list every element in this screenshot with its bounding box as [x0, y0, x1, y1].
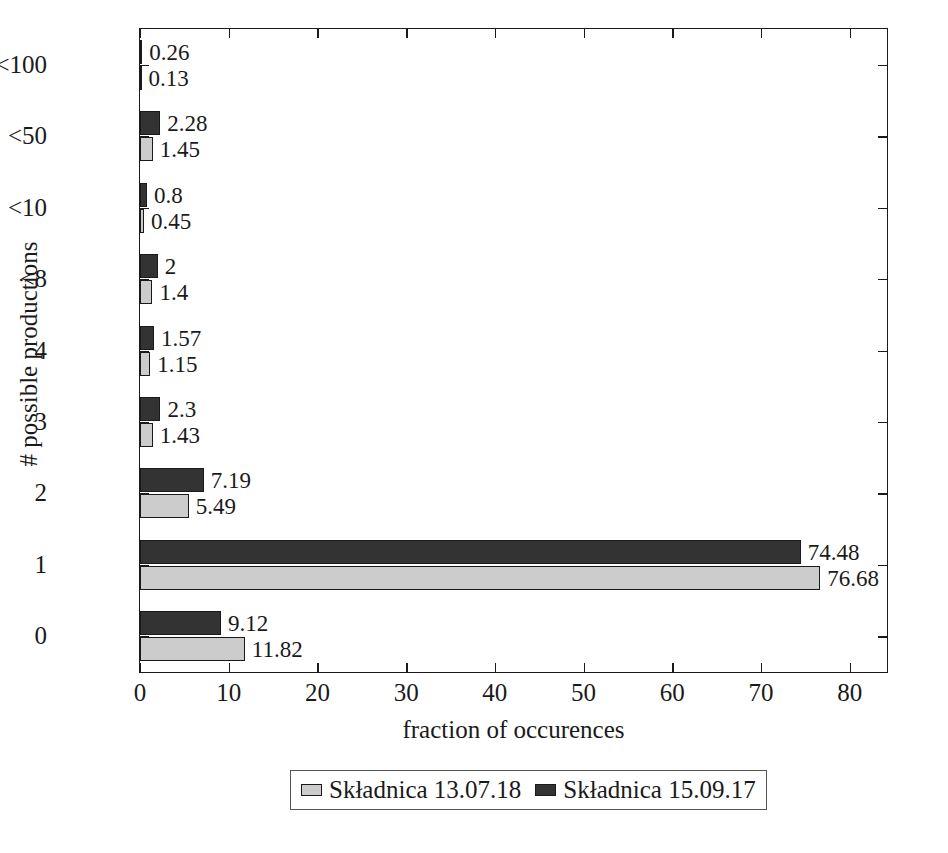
y-tick-mark: [140, 136, 149, 137]
x-tick-mark: [761, 663, 762, 672]
x-tick-mark-top: [317, 29, 318, 38]
bar-value-label: 2.3: [167, 398, 196, 422]
bar-value-label: 76.68: [827, 567, 879, 591]
y-tick-mark-right: [878, 636, 887, 637]
x-tick-mark-top: [584, 29, 585, 38]
bar: [140, 254, 158, 278]
bars-layer: 0.260.132.281.450.80.4521.41.571.152.31.…: [140, 29, 887, 672]
bar: [140, 66, 142, 90]
x-tick-mark-top: [850, 29, 851, 38]
bar: [140, 540, 801, 564]
bar: [140, 423, 153, 447]
bar: [140, 326, 154, 350]
bar-value-label: 2.28: [167, 112, 207, 136]
bar: [140, 183, 147, 207]
legend-entry: Składnica 13.07.18: [301, 777, 521, 803]
bar-value-label: 2: [165, 255, 177, 279]
bar: [140, 566, 820, 590]
x-tick-mark: [584, 663, 585, 672]
y-tick-mark-right: [878, 422, 887, 423]
x-tick-label: 10: [216, 679, 241, 707]
y-tick-mark: [140, 422, 149, 423]
bar-value-label: 74.48: [808, 541, 860, 565]
x-tick-mark-top: [406, 29, 407, 38]
chart-legend: Składnica 13.07.18Składnica 15.09.17: [290, 770, 767, 810]
y-tick-mark: [140, 636, 149, 637]
bar-value-label: 0.8: [154, 184, 183, 208]
y-tick-mark: [140, 208, 149, 209]
x-tick-mark-top: [761, 29, 762, 38]
y-tick-label: <100: [0, 52, 59, 78]
y-tick-mark-right: [878, 65, 887, 66]
bar-chart-figure: 0.260.132.281.450.80.4521.41.571.152.31.…: [0, 0, 948, 853]
y-axis-label: # possible productions: [15, 204, 43, 504]
bar: [140, 280, 152, 304]
x-tick-label: 20: [305, 679, 330, 707]
bar-value-label: 0.45: [151, 210, 191, 234]
bar-value-label: 1.15: [157, 353, 197, 377]
x-tick-mark-top: [229, 29, 230, 38]
y-tick-label: <50: [8, 123, 59, 149]
x-tick-mark: [495, 663, 496, 672]
y-tick-mark: [140, 351, 149, 352]
bar-value-label: 1.45: [160, 138, 200, 162]
y-tick-mark: [140, 565, 149, 566]
bar: [140, 352, 150, 376]
x-tick-label: 70: [749, 679, 774, 707]
x-tick-mark: [317, 663, 318, 672]
x-tick-mark-top: [672, 29, 673, 38]
bar-value-label: 11.82: [252, 638, 303, 662]
legend-label: Składnica 15.09.17: [563, 777, 755, 803]
bar: [140, 397, 160, 421]
x-tick-mark: [672, 663, 673, 672]
bar-value-label: 1.43: [160, 424, 200, 448]
y-tick-mark: [140, 279, 149, 280]
y-tick-mark-right: [878, 208, 887, 209]
bar-value-label: 0.13: [149, 67, 189, 91]
y-tick-mark-right: [878, 493, 887, 494]
x-tick-label: 50: [571, 679, 596, 707]
y-tick-mark-right: [878, 136, 887, 137]
legend-entry: Składnica 15.09.17: [535, 777, 755, 803]
legend-swatch-icon: [301, 784, 322, 796]
y-tick-mark: [140, 493, 149, 494]
x-tick-mark: [140, 663, 141, 672]
bar-value-label: 1.57: [161, 327, 201, 351]
bar-value-label: 0.26: [149, 41, 189, 65]
y-tick-mark-right: [878, 565, 887, 566]
bar-value-label: 7.19: [211, 469, 251, 493]
bar: [140, 111, 160, 135]
legend-swatch-icon: [535, 784, 556, 796]
bar: [140, 611, 221, 635]
x-tick-mark-top: [495, 29, 496, 38]
bar: [140, 40, 142, 64]
x-axis-label: fraction of occurences: [139, 716, 888, 744]
y-tick-label: 0: [35, 623, 60, 649]
x-tick-label: 60: [660, 679, 685, 707]
x-tick-label: 0: [134, 679, 147, 707]
x-tick-mark: [229, 663, 230, 672]
bar: [140, 637, 245, 661]
legend-label: Składnica 13.07.18: [329, 777, 521, 803]
x-tick-label: 80: [837, 679, 862, 707]
y-tick-mark: [140, 65, 149, 66]
bar-value-label: 1.4: [159, 281, 188, 305]
y-tick-mark-right: [878, 351, 887, 352]
bar: [140, 209, 144, 233]
bar-value-label: 9.12: [228, 612, 268, 636]
bar: [140, 494, 189, 518]
x-tick-label: 30: [394, 679, 419, 707]
bar: [140, 468, 204, 492]
x-tick-mark: [406, 663, 407, 672]
x-tick-mark: [850, 663, 851, 672]
y-tick-mark-right: [878, 279, 887, 280]
x-tick-label: 40: [482, 679, 507, 707]
x-tick-mark-top: [140, 29, 141, 38]
y-tick-label: 1: [35, 552, 60, 578]
bar-value-label: 5.49: [196, 495, 236, 519]
bar: [140, 137, 153, 161]
